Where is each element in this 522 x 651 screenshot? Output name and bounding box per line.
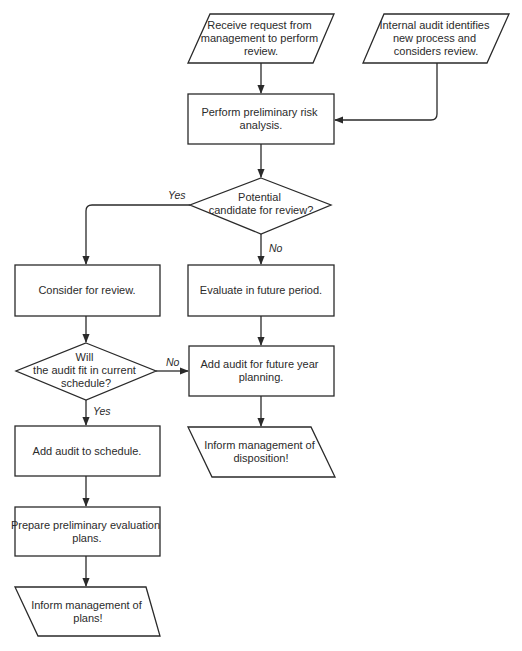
node-line: the audit fit in current <box>33 364 136 376</box>
node-risk-analysis: Perform preliminary risk analysis. <box>188 94 334 144</box>
node-line: planning. <box>239 371 284 383</box>
node-prepare-plans: Prepare preliminary evaluation plans. <box>11 507 163 556</box>
edge-label-candidate-yes: Yes <box>168 189 186 201</box>
node-inform-plans: Inform management of plans! <box>15 587 160 636</box>
node-text: Internal audit identifies new process an… <box>379 19 492 57</box>
edge-label-candidate-no: No <box>269 242 283 254</box>
node-internal-audit: Internal audit identifies new process an… <box>363 14 509 63</box>
node-line: schedule? <box>61 377 111 389</box>
node-future-year: Add audit for future year planning. <box>189 346 334 396</box>
node-line: considers review. <box>394 45 478 57</box>
node-line: Inform management of <box>204 439 316 451</box>
edge-label-fit-yes: Yes <box>93 405 111 417</box>
node-receive-request: Receive request from management to perfo… <box>188 14 334 63</box>
node-line: Receive request from <box>207 19 312 31</box>
node-inform-disposition: Inform management of disposition! <box>188 427 335 477</box>
flowchart-canvas: Yes No No Yes Receive request from manag… <box>0 0 522 651</box>
node-text: Consider for review. <box>38 284 135 296</box>
node-line: Consider for review. <box>38 284 135 296</box>
node-evaluate-future: Evaluate in future period. <box>188 265 334 316</box>
node-line: Add audit to schedule. <box>33 445 142 457</box>
node-consider-review: Consider for review. <box>15 265 160 316</box>
edge-internal-to-risk <box>335 63 437 120</box>
node-line: plans! <box>73 612 102 624</box>
node-line: analysis. <box>240 119 283 131</box>
node-text: Add audit to schedule. <box>33 445 142 457</box>
node-candidate-decision: Potential candidate for review? <box>190 178 331 234</box>
node-line: Prepare preliminary evaluation <box>11 519 160 531</box>
node-line: management to perform <box>201 32 318 44</box>
node-line: Add audit for future year <box>200 358 318 370</box>
edge-label-fit-no: No <box>166 356 180 368</box>
node-line: plans. <box>72 532 101 544</box>
node-add-schedule: Add audit to schedule. <box>15 426 160 476</box>
edge-candidate-yes <box>86 205 190 264</box>
node-line: review. <box>244 45 278 57</box>
node-line: new process and <box>393 32 476 44</box>
node-line: Inform management of <box>31 599 143 611</box>
node-line: Will <box>76 351 94 363</box>
node-text: Evaluate in future period. <box>200 284 322 296</box>
node-line: disposition! <box>233 452 288 464</box>
node-line: Perform preliminary risk <box>201 106 318 118</box>
node-line: Internal audit identifies <box>379 19 490 31</box>
node-line: Potential <box>238 191 281 203</box>
node-fit-decision: Will the audit fit in current schedule? <box>16 343 156 400</box>
node-line: candidate for review? <box>209 204 314 216</box>
node-line: Evaluate in future period. <box>200 284 322 296</box>
